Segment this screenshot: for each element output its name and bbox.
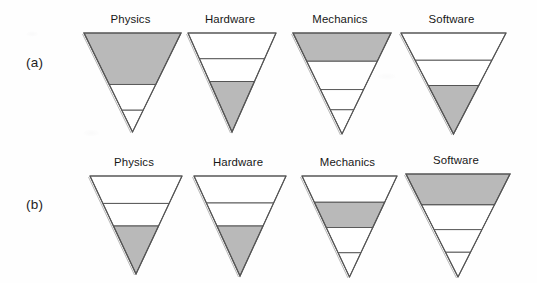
triangle-band-empty — [194, 176, 286, 203]
triangle-band-empty — [199, 59, 264, 82]
triangle-band-shaded — [406, 174, 510, 205]
triangle-band-empty — [307, 61, 378, 89]
triangle-band-shaded — [428, 86, 478, 134]
triangle-band-empty — [109, 84, 156, 110]
triangle-hardware: Hardware — [182, 141, 294, 280]
triangle-band-empty — [90, 176, 182, 203]
triangle-shape-software — [399, 31, 508, 136]
triangle-title-hardware: Hardware — [176, 13, 284, 25]
triangle-hardware: Hardware — [176, 0, 284, 136]
row-label-b: (b) — [26, 197, 43, 212]
triangle-band-empty — [434, 230, 482, 253]
triangle-software: Software — [389, 0, 514, 138]
triangle-shape-hardware — [192, 174, 288, 278]
triangle-mechanics: Mechanics — [281, 0, 399, 138]
triangle-mechanics: Mechanics — [290, 141, 405, 281]
triangle-title-software: Software — [389, 13, 514, 25]
triangle-band-shaded — [217, 226, 263, 276]
triangle-band-empty — [401, 33, 506, 60]
triangle-band-empty — [302, 176, 397, 202]
triangle-title-mechanics: Mechanics — [281, 13, 399, 25]
triangle-title-physics: Physics — [78, 156, 190, 168]
triangle-physics: Physics — [78, 141, 190, 278]
triangle-band-empty — [206, 203, 273, 226]
figure-row-b: (b) PhysicsHardwareMechanicsSoftware — [0, 141, 537, 282]
triangle-band-empty — [188, 33, 276, 59]
triangle-title-software: Software — [394, 154, 518, 166]
triangle-band-shaded — [84, 33, 181, 84]
triangle-band-shaded — [113, 226, 158, 274]
triangle-shape-physics — [88, 174, 184, 276]
triangle-band-shaded — [293, 33, 391, 61]
triangle-shape-physics — [82, 31, 183, 134]
triangle-title-mechanics: Mechanics — [290, 156, 405, 168]
triangle-band-empty — [103, 203, 169, 226]
row-label-a: (a) — [26, 55, 43, 70]
figure-row-a: (a) PhysicsHardwareMechanicsSoftware — [0, 0, 537, 141]
triangle-shape-software — [404, 172, 512, 279]
triangle-band-shaded — [210, 82, 255, 132]
triangle-band-empty — [326, 228, 373, 253]
triangle-physics: Physics — [72, 0, 189, 136]
triangle-shape-hardware — [186, 31, 278, 134]
triangle-shape-mechanics — [300, 174, 399, 279]
triangle-shape-mechanics — [291, 31, 393, 136]
figure-root: (a) PhysicsHardwareMechanicsSoftware (b)… — [0, 0, 537, 283]
triangle-title-hardware: Hardware — [182, 156, 294, 168]
triangle-software: Software — [394, 141, 518, 281]
triangle-title-physics: Physics — [72, 13, 189, 25]
